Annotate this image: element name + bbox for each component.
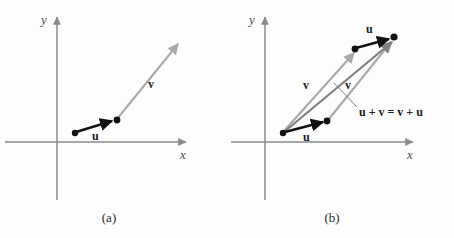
y-axis-label: y [41, 13, 47, 26]
point-tail-u [72, 130, 78, 136]
panel-a: y x u v (a) [0, 0, 227, 238]
y-axis-label: y [249, 13, 255, 26]
x-axis-label: x [407, 148, 413, 161]
point-v-head-left [352, 46, 359, 53]
point-u-head-bottom [324, 118, 331, 125]
vector-v-label: v [148, 78, 154, 90]
panel-b: y x u v u v u + v = v + u (b) [227, 0, 454, 238]
vector-v-left-label: v [303, 79, 309, 91]
vector-addition-figure: y x u v (a) [0, 0, 454, 238]
point-sum-head [390, 33, 397, 40]
vector-u-top-arrow [356, 39, 389, 48]
panel-a-graphic [0, 0, 227, 210]
x-axis-label: x [180, 148, 186, 161]
panel-b-caption: (b) [302, 210, 362, 226]
vector-v-right-label: v [345, 79, 351, 91]
panel-a-caption: (a) [79, 210, 139, 226]
vector-u-label: u [92, 130, 99, 142]
vector-u-top-label: u [366, 23, 373, 35]
vector-v-left-arrow [284, 53, 354, 131]
vector-sum-label: u + v = v + u [359, 106, 423, 118]
vector-u-bottom-label: u [303, 131, 310, 143]
point-origin [280, 130, 286, 136]
point-head-u [114, 117, 121, 124]
